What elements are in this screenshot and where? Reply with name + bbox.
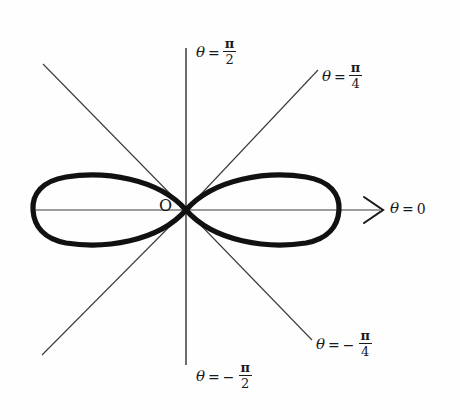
theta-symbol: θ bbox=[196, 45, 205, 60]
fraction-numerator: π bbox=[239, 361, 253, 375]
label-theta-pi-over-4: θ = π 4 bbox=[322, 62, 362, 91]
minus-symbol: − bbox=[343, 338, 356, 352]
fraction-pi-over-4: π 4 bbox=[359, 329, 373, 358]
label-theta-neg-pi-over-4: θ = − π 4 bbox=[316, 330, 372, 359]
fraction-pi-over-4: π 4 bbox=[349, 61, 363, 90]
equals-symbol: = bbox=[208, 370, 220, 384]
label-theta-pi-over-2: θ = π 2 bbox=[196, 38, 236, 67]
fraction-denominator: 2 bbox=[239, 376, 251, 390]
fraction-denominator: 4 bbox=[359, 344, 371, 358]
theta-symbol: θ bbox=[322, 69, 331, 84]
fraction-denominator: 4 bbox=[349, 76, 361, 90]
ray-theta-pi-4 bbox=[186, 70, 318, 210]
theta-symbol: θ bbox=[196, 369, 205, 384]
minus-symbol: − bbox=[223, 370, 236, 384]
ray-upper-left bbox=[43, 64, 186, 210]
polar-figure: O θ = π 2 θ = π 4 θ = 0 θ = − π 4 bbox=[0, 0, 460, 420]
theta-zero-value: 0 bbox=[417, 202, 426, 216]
fraction-numerator: π bbox=[349, 61, 363, 75]
equals-symbol: = bbox=[328, 338, 340, 352]
fraction-numerator: π bbox=[223, 37, 237, 51]
label-theta-neg-pi-over-2: θ = − π 2 bbox=[196, 362, 252, 391]
equals-symbol: = bbox=[402, 202, 414, 216]
origin-label: O bbox=[159, 196, 172, 215]
fraction-numerator: π bbox=[359, 329, 373, 343]
equals-symbol: = bbox=[208, 46, 220, 60]
fraction-pi-over-2: π 2 bbox=[223, 37, 237, 66]
fraction-denominator: 2 bbox=[223, 52, 235, 66]
theta-symbol: θ bbox=[316, 337, 325, 352]
fraction-pi-over-2: π 2 bbox=[239, 361, 253, 390]
equals-symbol: = bbox=[334, 70, 346, 84]
label-theta-zero: θ = 0 bbox=[390, 201, 426, 216]
ray-lower-left bbox=[42, 210, 186, 355]
ray-theta-neg-pi-4 bbox=[186, 210, 312, 340]
theta-symbol: θ bbox=[390, 201, 399, 216]
